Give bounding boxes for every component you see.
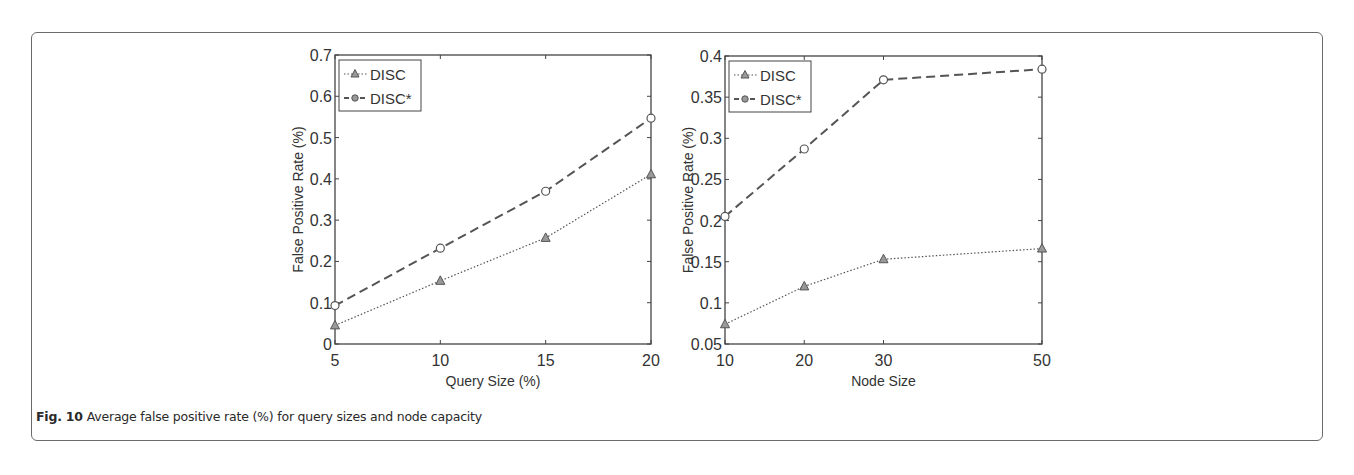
- series-line-disc-star: [335, 118, 651, 305]
- legend: DISCDISC*: [729, 61, 811, 112]
- series-line-disc: [335, 174, 651, 325]
- legend-entry: DISC: [760, 67, 796, 84]
- x-tick-label: 10: [431, 352, 449, 369]
- y-tick-label: 0.05: [691, 336, 722, 353]
- chart-2: 0.050.10.150.20.250.30.350.410203050Node…: [680, 48, 1051, 389]
- x-axis-label: Query Size (%): [446, 373, 541, 389]
- circle-marker: [742, 96, 748, 102]
- y-axis-label: False Positive Rate (%): [680, 127, 696, 273]
- x-tick-label: 20: [795, 352, 813, 369]
- circle-marker: [647, 114, 655, 122]
- triangle-marker: [436, 276, 445, 285]
- circle-marker: [1038, 65, 1046, 73]
- triangle-marker: [721, 319, 730, 328]
- triangle-marker: [541, 233, 550, 242]
- y-tick-label: 0.7: [310, 47, 332, 64]
- legend-entry: DISC: [370, 66, 406, 83]
- x-tick-label: 20: [642, 352, 660, 369]
- circle-marker: [542, 187, 550, 195]
- circle-marker: [331, 302, 339, 310]
- legend-entry: DISC*: [760, 91, 802, 108]
- x-tick-label: 15: [537, 352, 555, 369]
- x-tick-label: 50: [1033, 352, 1051, 369]
- y-tick-label: 0.6: [310, 88, 332, 105]
- y-axis-label: False Positive Rate (%): [290, 126, 306, 272]
- y-tick-label: 0.1: [700, 295, 722, 312]
- x-tick-label: 30: [875, 352, 893, 369]
- circle-marker: [800, 145, 808, 153]
- legend-entry: DISC*: [370, 90, 412, 107]
- figure-caption: Fig. 10 Average false positive rate (%) …: [36, 409, 482, 424]
- x-tick-label: 10: [716, 352, 734, 369]
- circle-marker: [880, 76, 888, 84]
- y-tick-label: 0.4: [310, 171, 332, 188]
- x-axis-label: Node Size: [851, 373, 916, 389]
- circle-marker: [721, 212, 729, 220]
- caption-label: Fig. 10: [36, 409, 83, 424]
- y-tick-label: 0: [323, 336, 332, 353]
- circle-marker: [436, 244, 444, 252]
- x-tick-label: 5: [331, 352, 340, 369]
- y-tick-label: 0.3: [700, 130, 722, 147]
- y-tick-label: 0.4: [700, 48, 722, 65]
- y-tick-label: 0.2: [310, 253, 332, 270]
- y-tick-label: 0.5: [310, 130, 332, 147]
- triangle-marker: [1038, 244, 1047, 253]
- legend: DISCDISC*: [339, 60, 421, 111]
- chart-1: 00.10.20.30.40.50.60.75101520Query Size …: [290, 47, 660, 389]
- y-tick-label: 0.2: [700, 213, 722, 230]
- figure-charts: 00.10.20.30.40.50.60.75101520Query Size …: [0, 0, 1354, 475]
- y-tick-label: 0.3: [310, 212, 332, 229]
- circle-marker: [352, 95, 358, 101]
- y-tick-label: 0.1: [310, 295, 332, 312]
- triangle-marker: [647, 169, 656, 178]
- caption-text: Average false positive rate (%) for quer…: [83, 409, 482, 424]
- triangle-marker: [879, 254, 888, 263]
- y-tick-label: 0.35: [691, 89, 722, 106]
- triangle-marker: [331, 320, 340, 329]
